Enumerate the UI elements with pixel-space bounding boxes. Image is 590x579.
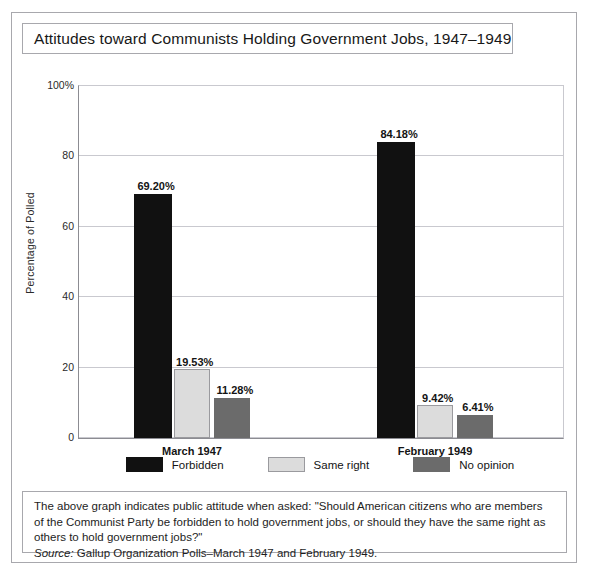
caption-source-label: Source: xyxy=(34,547,74,559)
bar-february-1949-forbidden[interactable]: 84.18% xyxy=(377,142,415,438)
y-tick-label-20: 20 xyxy=(62,361,74,373)
chart-title-box: Attitudes toward Communists Holding Gove… xyxy=(22,23,513,54)
legend-swatch-forbidden-icon xyxy=(126,457,163,472)
bar-march-1947-forbidden[interactable]: 69.20% xyxy=(134,194,172,438)
caption-text: The above graph indicates public attitud… xyxy=(34,499,555,546)
gridline-100: 100% xyxy=(79,85,563,86)
legend-item-same-right[interactable]: Same right xyxy=(268,457,370,472)
category-label-february-1949: February 1949 xyxy=(398,445,473,457)
y-tick-label-60: 60 xyxy=(62,220,74,232)
bar-value-march-1947-same-right: 19.53% xyxy=(176,356,213,368)
gridline-80: 80 xyxy=(79,155,563,156)
y-tick-label-40: 40 xyxy=(62,290,74,302)
y-tick-label-0: 0 xyxy=(68,431,74,443)
plot-area: 0 20 40 60 80 100% 69.20% 19.53% xyxy=(78,85,564,439)
legend-label-no-opinion: No opinion xyxy=(459,459,514,471)
legend-item-forbidden[interactable]: Forbidden xyxy=(126,457,224,472)
bar-value-february-1949-forbidden: 84.18% xyxy=(380,128,417,140)
chart-legend: Forbidden Same right No opinion xyxy=(78,457,562,472)
bar-value-march-1947-forbidden: 69.20% xyxy=(137,180,174,192)
legend-item-no-opinion[interactable]: No opinion xyxy=(413,457,514,472)
y-tick-label-80: 80 xyxy=(62,149,74,161)
chart-region: Percentage of Polled 0 20 40 60 80 100% xyxy=(12,57,576,482)
legend-label-same-right: Same right xyxy=(314,459,370,471)
page-title: Attitudes toward Communists Holding Gove… xyxy=(34,30,511,48)
caption-source: Source: Gallup Organization Polls–March … xyxy=(34,546,555,562)
bar-value-march-1947-no-opinion: 11.28% xyxy=(217,384,254,396)
bar-value-february-1949-same-right: 9.42% xyxy=(422,392,453,404)
bar-march-1947-same-right[interactable]: 19.53% xyxy=(174,369,210,438)
figure-frame: Attitudes toward Communists Holding Gove… xyxy=(11,12,577,563)
bar-value-february-1949-no-opinion: 6.41% xyxy=(462,401,493,413)
y-tick-label-100: 100% xyxy=(47,79,74,91)
bar-february-1949-same-right[interactable]: 9.42% xyxy=(417,405,453,438)
caption-box: The above graph indicates public attitud… xyxy=(22,491,567,553)
bar-march-1947-no-opinion[interactable]: 11.28% xyxy=(214,398,250,438)
legend-swatch-same-right-icon xyxy=(268,457,305,472)
bar-february-1949-no-opinion[interactable]: 6.41% xyxy=(457,415,493,438)
caption-source-text: Gallup Organization Polls–March 1947 and… xyxy=(74,547,378,559)
y-axis-title: Percentage of Polled xyxy=(24,163,36,323)
legend-swatch-no-opinion-icon xyxy=(413,457,450,472)
category-label-march-1947: March 1947 xyxy=(162,445,222,457)
legend-label-forbidden: Forbidden xyxy=(172,459,224,471)
